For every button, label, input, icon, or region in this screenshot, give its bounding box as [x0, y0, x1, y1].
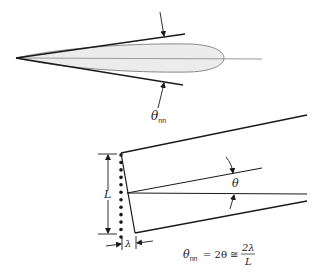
beam-edge-upper: [121, 115, 307, 153]
array-elements: [119, 153, 123, 239]
beam-edge-lower: [135, 201, 307, 233]
steered-line: [127, 168, 262, 193]
array-element-dot: [119, 183, 123, 187]
array-element-dot: [119, 198, 123, 202]
lambda-arrow-left: [106, 244, 121, 246]
eq-denominator: L: [244, 256, 252, 267]
aperture-label: L: [103, 188, 111, 201]
diagram-canvas: θnn L λ θ θnn = 2θ ≅ 2λ: [0, 0, 325, 274]
theta-arrow-upper: [226, 157, 233, 173]
theta-label: θ: [232, 177, 239, 190]
boresight-line: [127, 193, 307, 194]
wavelength-label: λ: [124, 238, 131, 249]
svg-text:θnn: θnn: [183, 248, 198, 262]
eq-lhs-subscript: nn: [190, 255, 198, 262]
array-element-dot: [119, 168, 123, 172]
array-element-dot: [119, 228, 123, 232]
eq-middle: = 2θ ≅: [203, 249, 238, 260]
beamwidth-label: θnn: [151, 109, 166, 124]
eq-numerator: 2λ: [241, 242, 255, 253]
arrow-upper: [160, 12, 164, 36]
beam-pattern: θnn: [16, 12, 262, 124]
array-element-dot: [119, 220, 123, 224]
theta-arrow-lower: [230, 195, 234, 209]
array-geometry: L λ θ θnn = 2θ ≅ 2λ L: [98, 115, 307, 267]
array-element-dot: [119, 161, 123, 165]
beamwidth-equation: θnn = 2θ ≅ 2λ L: [183, 242, 255, 267]
array-element-dot: [119, 153, 123, 157]
array-element-dot: [119, 190, 123, 194]
lambda-arrow-right: [137, 241, 153, 243]
arrow-lower: [158, 83, 164, 108]
array-element-dot: [119, 176, 123, 180]
array-element-dot: [119, 205, 123, 209]
array-element-dot: [119, 213, 123, 217]
